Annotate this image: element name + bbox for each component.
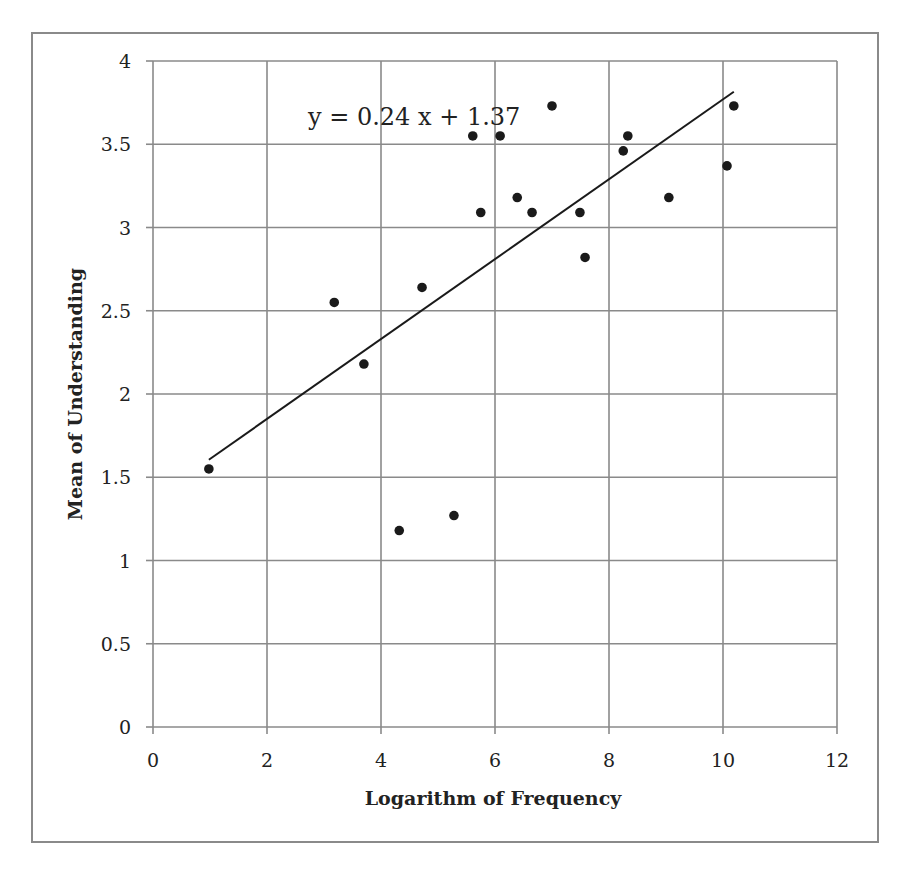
x-axis-title: Logarithm of Frequency (365, 787, 622, 809)
data-point (623, 131, 633, 141)
data-point (547, 101, 557, 111)
scatter-chart: 00.511.522.533.54 024681012 y = 0.24 x +… (0, 0, 907, 872)
data-point (417, 283, 427, 293)
y-axis-title: Mean of Understanding (64, 268, 86, 520)
data-point (729, 101, 739, 111)
gridlines (153, 61, 837, 727)
x-tick-label: 12 (825, 749, 849, 771)
x-tick-label: 6 (489, 749, 501, 771)
y-tick-label: 3.5 (101, 133, 131, 155)
chart-frame (32, 33, 878, 842)
data-point (580, 253, 590, 263)
y-tick-label: 0 (119, 716, 131, 738)
x-tick-label: 4 (375, 749, 387, 771)
x-tick-label: 2 (261, 749, 273, 771)
data-point (394, 526, 404, 536)
y-tick-label: 1 (119, 550, 131, 572)
data-point (204, 464, 214, 474)
data-point (664, 193, 674, 203)
y-tick-label: 3 (119, 217, 131, 239)
trendline (209, 92, 734, 460)
data-point (359, 359, 369, 369)
data-point (618, 146, 628, 156)
y-tick-label: 2.5 (101, 300, 131, 322)
data-point (476, 208, 486, 218)
x-tick-label: 10 (711, 749, 735, 771)
x-tick-label: 8 (603, 749, 615, 771)
data-points (204, 101, 739, 535)
data-point (468, 131, 478, 141)
x-tick-label: 0 (147, 749, 159, 771)
y-tick-label: 1.5 (101, 466, 131, 488)
y-tick-label: 4 (119, 50, 131, 72)
y-tick-label: 0.5 (101, 633, 131, 655)
data-point (495, 131, 505, 141)
data-point (449, 511, 459, 521)
data-point (575, 208, 585, 218)
data-point (527, 208, 537, 218)
data-point (329, 298, 339, 308)
x-axis-tick-labels: 024681012 (147, 749, 849, 771)
data-point (722, 161, 732, 171)
trendline-equation: y = 0.24 x + 1.37 (307, 103, 520, 131)
axis-ticks (146, 61, 837, 734)
y-axis-tick-labels: 00.511.522.533.54 (101, 50, 131, 738)
chart-container: 00.511.522.533.54 024681012 y = 0.24 x +… (0, 0, 907, 872)
data-point (512, 193, 522, 203)
y-tick-label: 2 (119, 383, 131, 405)
